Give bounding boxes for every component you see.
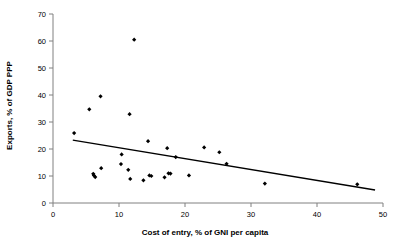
- data-point: [187, 173, 191, 177]
- data-point: [174, 155, 178, 159]
- data-point: [119, 162, 123, 166]
- data-point: [141, 178, 145, 182]
- data-point: [127, 112, 131, 116]
- data-point: [87, 107, 91, 111]
- x-axis-ticks: [53, 203, 383, 207]
- data-point: [99, 166, 103, 170]
- data-point: [120, 152, 124, 156]
- data-point: [98, 94, 102, 98]
- trendline: [73, 140, 375, 190]
- data-point: [162, 175, 166, 179]
- data-point: [165, 146, 169, 150]
- data-point: [126, 168, 130, 172]
- data-point: [217, 150, 221, 154]
- data-point: [263, 181, 267, 185]
- scatter-chart-figure: Exports, % of GDP PPP Cost of entry, % o…: [0, 0, 399, 250]
- trendline-path: [73, 140, 375, 190]
- data-point: [72, 131, 76, 135]
- plot-area: [0, 0, 399, 250]
- data-point: [146, 139, 150, 143]
- data-point: [128, 177, 132, 181]
- data-point: [132, 38, 136, 42]
- y-axis-ticks: [49, 14, 53, 203]
- data-point: [202, 145, 206, 149]
- axes-group: [49, 14, 383, 207]
- data-point: [355, 182, 359, 186]
